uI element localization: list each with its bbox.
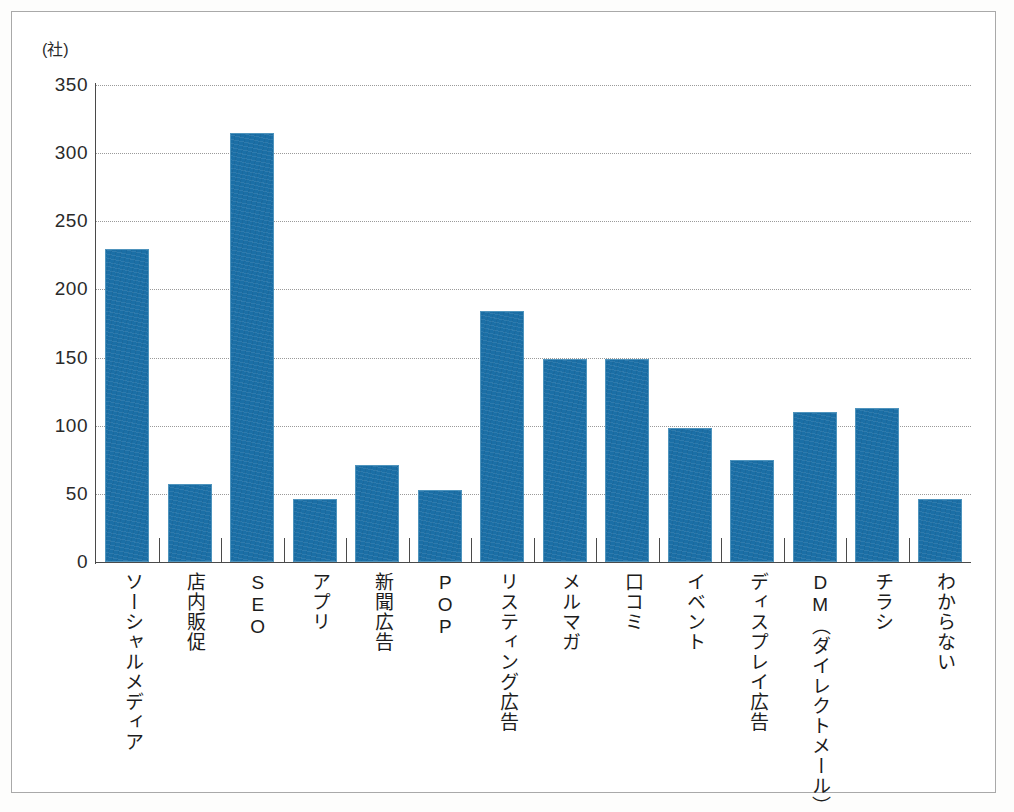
x-tick: [471, 538, 472, 562]
y-tick-label: 150: [36, 348, 88, 367]
x-category-label: SEO: [238, 572, 268, 638]
x-tick: [284, 538, 285, 562]
x-tick: [784, 538, 785, 562]
x-tick: [721, 538, 722, 562]
bar-slot: [346, 85, 409, 562]
bar-slot: [909, 85, 972, 562]
x-category-label: ディスプレイ広告: [738, 572, 768, 732]
chart-page: (社) 350300250200150100500 ソーシャルメディア店内販促S…: [0, 0, 1014, 812]
x-category-label: DM（ダイレクトメール）: [801, 572, 831, 812]
bar[interactable]: [543, 359, 587, 562]
bar[interactable]: [480, 311, 524, 562]
y-tick-label: 350: [36, 75, 88, 94]
x-tick: [659, 538, 660, 562]
x-category-label: イベント: [676, 572, 706, 652]
x-axis-ticks: [96, 538, 971, 562]
bar-slot: [284, 85, 347, 562]
x-tick: [159, 538, 160, 562]
x-tick: [534, 538, 535, 562]
y-tick-label: 100: [36, 416, 88, 435]
x-category-label: POP: [426, 572, 456, 638]
x-category-label: メルマガ: [551, 572, 581, 652]
bar-slot: [534, 85, 597, 562]
x-category-label: 新聞広告: [363, 572, 393, 652]
x-category-label: リスティング広告: [488, 572, 518, 732]
y-tick-label: 50: [36, 484, 88, 503]
bar-slot: [659, 85, 722, 562]
y-tick-label: 0: [36, 552, 88, 571]
bar-slot: [596, 85, 659, 562]
x-category-label: アプリ: [301, 572, 331, 632]
plot-area: [96, 85, 971, 562]
y-tick-label: 250: [36, 211, 88, 230]
y-tick-label: 300: [36, 143, 88, 162]
bar-slot: [846, 85, 909, 562]
x-tick: [409, 538, 410, 562]
x-category-label: 口コミ: [613, 572, 643, 632]
x-category-label: わからない: [926, 572, 956, 672]
bar-slot: [159, 85, 222, 562]
bar-slot: [221, 85, 284, 562]
bar[interactable]: [105, 249, 149, 562]
bar-slot: [784, 85, 847, 562]
x-axis-baseline: [96, 562, 971, 563]
bar-slot: [409, 85, 472, 562]
x-category-label: 店内販促: [176, 572, 206, 652]
x-tick: [846, 538, 847, 562]
x-tick: [909, 538, 910, 562]
x-tick: [221, 538, 222, 562]
x-category-label: ソーシャルメディア: [113, 572, 143, 752]
bar-slot: [721, 85, 784, 562]
bar[interactable]: [230, 133, 274, 562]
x-tick: [346, 538, 347, 562]
y-axis-tick-labels: 350300250200150100500: [24, 0, 88, 812]
x-category-label: チラシ: [863, 572, 893, 632]
x-tick: [596, 538, 597, 562]
bar[interactable]: [605, 359, 649, 562]
x-axis-category-labels: ソーシャルメディア店内販促SEOアプリ新聞広告POPリスティング広告メルマガ口コ…: [96, 572, 971, 772]
bar-slot: [471, 85, 534, 562]
y-tick-label: 200: [36, 279, 88, 298]
bar-slot: [96, 85, 159, 562]
